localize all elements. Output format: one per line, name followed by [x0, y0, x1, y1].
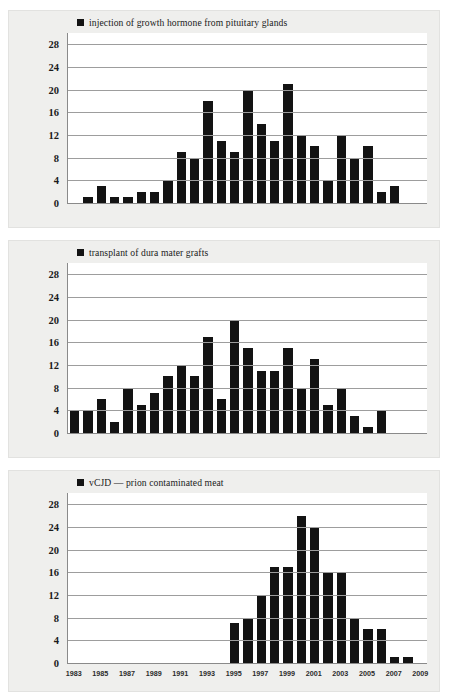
- bar: [110, 197, 120, 203]
- bar: [270, 567, 280, 663]
- bar: [243, 90, 253, 203]
- y-axis-tick-label: 16: [49, 337, 60, 348]
- gridline: [68, 274, 427, 275]
- bar: [177, 365, 187, 433]
- y-axis-tick-label: 16: [49, 107, 60, 118]
- y-axis: 0481216202428: [9, 33, 67, 227]
- bar: [83, 197, 93, 203]
- chart-page: injection of growth hormone from pituita…: [0, 0, 467, 700]
- x-axis-tick-label: 2005: [359, 669, 375, 678]
- bar: [283, 567, 293, 663]
- chart-legend: injection of growth hormone from pituita…: [77, 17, 287, 28]
- gridline: [68, 90, 427, 91]
- gridline: [68, 595, 427, 596]
- y-axis-tick-label: 28: [49, 499, 60, 510]
- bar: [97, 399, 107, 433]
- x-axis-tick-label: 2001: [306, 669, 322, 678]
- legend-label: injection of growth hormone from pituita…: [89, 17, 287, 28]
- x-axis-tick-label: 1997: [252, 669, 268, 678]
- bar: [363, 146, 373, 203]
- y-axis-tick-label: 24: [49, 522, 60, 533]
- y-axis-tick-label: 0: [54, 658, 59, 669]
- chart-panel-vcjd: vCJD — prion contaminated meat 048121620…: [8, 470, 440, 692]
- y-axis-tick-label: 4: [54, 635, 59, 646]
- plot-area: [67, 263, 427, 434]
- bar: [230, 623, 240, 663]
- bar: [283, 348, 293, 433]
- bar: [230, 320, 240, 433]
- y-axis-tick-label: 12: [49, 590, 60, 601]
- y-axis-tick-label: 8: [54, 612, 59, 623]
- bar: [337, 135, 347, 203]
- gridline: [68, 410, 427, 411]
- bar: [270, 371, 280, 433]
- y-axis: 0481216202428: [9, 493, 67, 691]
- plot-area-wrapper: 0481216202428 19831985198719891991199319…: [9, 493, 439, 691]
- chart-panel-dura-mater: transplant of dura mater grafts 04812162…: [8, 240, 440, 458]
- plot-area-wrapper: 0481216202428: [9, 33, 439, 227]
- bar: [150, 393, 160, 433]
- bar: [323, 180, 333, 203]
- plot-area: [67, 493, 427, 664]
- x-axis-tick-label: 2009: [412, 669, 428, 678]
- y-axis-tick-label: 28: [49, 39, 60, 50]
- bar: [363, 427, 373, 433]
- bar: [163, 180, 173, 203]
- y-axis-tick-label: 20: [49, 314, 60, 325]
- y-axis-tick-label: 8: [54, 152, 59, 163]
- y-axis-tick-label: 0: [54, 198, 59, 209]
- y-axis: 0481216202428: [9, 263, 67, 457]
- bar-series: [68, 493, 427, 663]
- bar: [97, 186, 107, 203]
- gridline: [68, 640, 427, 641]
- y-axis-tick-label: 20: [49, 84, 60, 95]
- gridline: [68, 342, 427, 343]
- bar: [390, 657, 400, 663]
- x-axis-tick-label: 1987: [119, 669, 135, 678]
- gridline: [68, 180, 427, 181]
- y-axis-tick-label: 12: [49, 130, 60, 141]
- gridline: [68, 388, 427, 389]
- bar: [377, 629, 387, 663]
- legend-label: vCJD — prion contaminated meat: [89, 477, 224, 488]
- bar: [137, 192, 147, 203]
- x-axis-tick-label: 2003: [332, 669, 348, 678]
- gridline: [68, 504, 427, 505]
- y-axis-tick-label: 24: [49, 62, 60, 73]
- bar: [297, 135, 307, 203]
- x-axis-tick-label: 1983: [66, 669, 82, 678]
- y-axis-tick-label: 20: [49, 544, 60, 555]
- gridline: [68, 158, 427, 159]
- bar: [177, 152, 187, 203]
- bar: [390, 186, 400, 203]
- bar: [323, 405, 333, 433]
- bar-series: [68, 33, 427, 203]
- chart-panel-growth-hormone: injection of growth hormone from pituita…: [8, 10, 440, 228]
- bar: [403, 657, 413, 663]
- y-axis-tick-label: 4: [54, 405, 59, 416]
- bar: [257, 595, 267, 663]
- bar: [243, 348, 253, 433]
- bar: [217, 399, 227, 433]
- bar: [230, 152, 240, 203]
- bar: [377, 410, 387, 433]
- bar: [83, 410, 93, 433]
- bar: [190, 376, 200, 433]
- bar: [310, 146, 320, 203]
- chart-legend: transplant of dura mater grafts: [77, 247, 208, 258]
- bar: [257, 371, 267, 433]
- bar: [203, 101, 213, 203]
- gridline: [68, 572, 427, 573]
- x-axis-tick-label: 2007: [386, 669, 402, 678]
- gridline: [68, 135, 427, 136]
- x-axis-tick-label: 1991: [172, 669, 188, 678]
- chart-legend: vCJD — prion contaminated meat: [77, 477, 224, 488]
- y-axis-tick-label: 0: [54, 428, 59, 439]
- x-axis-tick-label: 1985: [92, 669, 108, 678]
- bar: [163, 376, 173, 433]
- bar: [70, 410, 80, 433]
- y-axis-tick-label: 12: [49, 360, 60, 371]
- bar: [150, 192, 160, 203]
- gridline: [68, 320, 427, 321]
- gridline: [68, 112, 427, 113]
